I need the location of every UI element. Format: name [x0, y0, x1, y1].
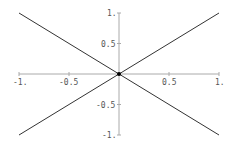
x-tick-label: 0.5	[162, 78, 177, 87]
x-tick-label: -1.	[13, 78, 27, 87]
y-tick-label: -0.5	[96, 101, 115, 110]
y-tick-label: -1.	[102, 131, 116, 140]
x-tick-label: -0.5	[59, 78, 78, 87]
x-tick-label: 1.	[215, 78, 225, 87]
plot-area: -1. -0.5 0.5 1. 1. 0.5 -0.5 -1.	[0, 0, 237, 148]
y-tick-label: 0.5	[101, 40, 116, 49]
y-tick-label: 1.	[107, 9, 117, 18]
origin-point	[117, 72, 121, 76]
